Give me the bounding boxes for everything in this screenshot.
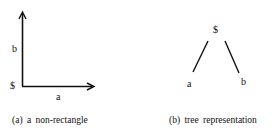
tree-edge-right: [225, 41, 239, 73]
caption-a: (a) a non-rectangle: [12, 115, 88, 125]
tree-root-label: $: [213, 25, 218, 35]
tree-edge-left: [193, 41, 208, 72]
tree-left-child-label: a: [187, 79, 191, 89]
caption-b: (b) tree representation: [169, 115, 257, 125]
panel-a-axes: [19, 12, 94, 90]
y-axis-label: b: [12, 44, 17, 54]
origin-label: $: [10, 81, 15, 91]
x-axis-label: a: [56, 92, 60, 102]
tree-right-child-label: b: [241, 77, 246, 87]
panel-b-tree: [193, 41, 239, 73]
